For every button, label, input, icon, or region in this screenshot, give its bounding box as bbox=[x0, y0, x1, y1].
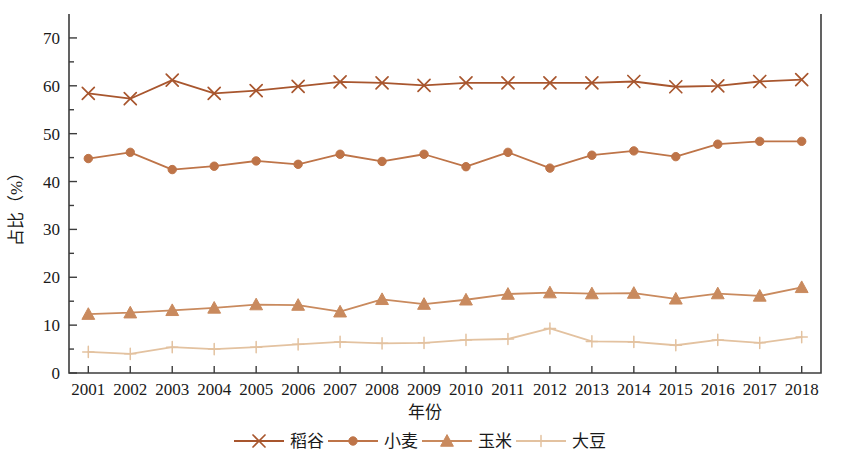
x-tick-label: 2007 bbox=[323, 380, 358, 399]
x-tick-label: 2005 bbox=[239, 380, 273, 399]
series-line bbox=[88, 80, 801, 99]
x-tick-label: 2001 bbox=[71, 380, 105, 399]
x-tick-label: 2018 bbox=[785, 380, 819, 399]
legend-label: 稻谷 bbox=[290, 432, 324, 451]
crop-share-line-chart: 010203040506070 200120022003200420052006… bbox=[0, 0, 844, 459]
y-tick-label: 50 bbox=[43, 125, 60, 144]
x-tick-label: 2009 bbox=[407, 380, 441, 399]
x-tick-label: 2014 bbox=[617, 380, 652, 399]
legend-item-稻谷[interactable]: 稻谷 bbox=[234, 432, 324, 451]
legend-label: 大豆 bbox=[572, 432, 606, 451]
x-tick-label: 2008 bbox=[365, 380, 399, 399]
series-markers bbox=[82, 281, 808, 319]
y-axis-ticks: 010203040506070 bbox=[43, 29, 77, 383]
chart-axes bbox=[69, 14, 821, 373]
series-markers bbox=[82, 74, 807, 105]
y-tick-label: 70 bbox=[43, 29, 60, 48]
x-tick-label: 2012 bbox=[533, 380, 567, 399]
x-tick-label: 2010 bbox=[449, 380, 483, 399]
x-tick-label: 2017 bbox=[743, 380, 778, 399]
series-line bbox=[88, 141, 801, 169]
y-tick-label: 60 bbox=[43, 77, 60, 96]
series-小麦 bbox=[84, 137, 806, 174]
plot-frame bbox=[69, 14, 821, 373]
x-tick-label: 2006 bbox=[281, 380, 315, 399]
legend-label: 小麦 bbox=[384, 432, 418, 451]
series-line bbox=[88, 328, 801, 353]
y-tick-label: 30 bbox=[43, 220, 60, 239]
chart-series bbox=[82, 74, 808, 360]
x-axis-title: 年份 bbox=[408, 403, 442, 422]
y-axis-title: 占比（%） bbox=[7, 164, 26, 246]
y-tick-label: 20 bbox=[43, 268, 60, 287]
y-tick-label: 10 bbox=[43, 316, 60, 335]
x-tick-label: 2003 bbox=[155, 380, 189, 399]
x-tick-label: 2011 bbox=[491, 380, 524, 399]
x-axis-ticks: 2001200220032004200520062007200820092010… bbox=[71, 366, 818, 399]
x-tick-label: 2016 bbox=[701, 380, 735, 399]
x-tick-label: 2004 bbox=[197, 380, 232, 399]
legend-item-玉米[interactable]: 玉米 bbox=[422, 432, 512, 451]
x-tick-label: 2002 bbox=[113, 380, 147, 399]
y-tick-label: 0 bbox=[52, 364, 61, 383]
chart-figure: 010203040506070 200120022003200420052006… bbox=[0, 0, 844, 459]
y-tick-label: 40 bbox=[43, 173, 60, 192]
legend-item-小麦[interactable]: 小麦 bbox=[328, 432, 418, 451]
series-稻谷 bbox=[82, 74, 807, 105]
series-玉米 bbox=[82, 281, 808, 319]
x-tick-label: 2013 bbox=[575, 380, 609, 399]
x-tick-label: 2015 bbox=[659, 380, 693, 399]
legend-item-大豆[interactable]: 大豆 bbox=[516, 432, 606, 451]
series-大豆 bbox=[83, 323, 808, 360]
series-line bbox=[88, 287, 801, 314]
chart-legend: 稻谷小麦玉米大豆 bbox=[234, 432, 606, 451]
legend-label: 玉米 bbox=[478, 432, 512, 451]
